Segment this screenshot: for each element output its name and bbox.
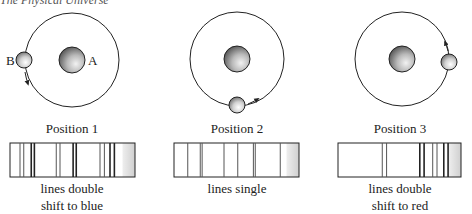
caption-line-1: lines double <box>0 180 147 197</box>
red-end-shading <box>449 143 461 177</box>
companion-star-b <box>16 52 32 68</box>
position-3-label: Position 3 <box>330 121 470 137</box>
spectrum-2-caption: lines single <box>162 180 312 197</box>
spectrum-1-caption: lines double shift to blue <box>0 180 147 214</box>
primary-star-a <box>224 46 250 72</box>
caption-line-2: shift to red <box>325 197 472 214</box>
red-end-shading <box>123 143 136 177</box>
primary-star-a <box>389 46 415 72</box>
spectrum-3-caption: lines double shift to red <box>325 180 472 214</box>
label-a: A <box>88 53 98 68</box>
spectrum-frame <box>338 143 461 177</box>
red-end-shading <box>287 143 300 177</box>
label-b: B <box>6 53 15 68</box>
spectrum-2 <box>174 143 299 177</box>
orbit-panel-3 <box>355 12 457 106</box>
position-1-label: Position 1 <box>2 121 142 137</box>
orbit-panel-1: B A <box>6 13 119 107</box>
caption-line-1: lines single <box>162 180 312 197</box>
caption-line-2: shift to blue <box>0 197 147 214</box>
position-2-label: Position 2 <box>167 121 307 137</box>
caption-line-1: lines double <box>325 180 472 197</box>
primary-star-a <box>59 47 85 73</box>
companion-star-b <box>441 54 457 70</box>
orbit-panel-2 <box>190 12 284 113</box>
spectrum-1 <box>10 143 135 177</box>
companion-star-b <box>229 97 245 113</box>
spectrum-3 <box>338 143 461 177</box>
